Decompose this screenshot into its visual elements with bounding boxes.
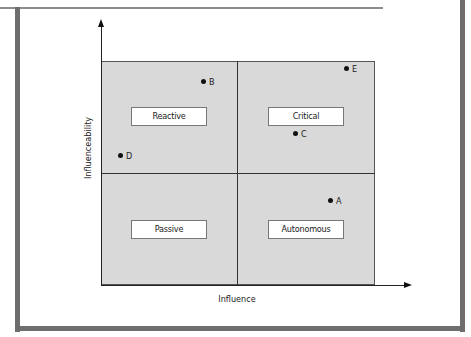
- quadrant-label-autonomous: Autonomous: [268, 220, 344, 239]
- data-point-a: A: [328, 196, 342, 206]
- point-marker-icon: [201, 79, 206, 84]
- x-axis: [101, 285, 406, 286]
- y-axis-label: Influenceability: [83, 127, 93, 179]
- frame-left-border: [15, 7, 20, 332]
- quadrant-label-passive: Passive: [131, 220, 207, 239]
- data-point-c: C: [293, 129, 307, 139]
- point-marker-icon: [344, 66, 349, 71]
- horizontal-divider: [101, 173, 375, 174]
- quadrant-label-critical: Critical: [268, 107, 344, 126]
- point-label: E: [352, 64, 357, 74]
- top-rule: [0, 7, 383, 9]
- point-marker-icon: [293, 131, 298, 136]
- x-axis-label: Influence: [212, 294, 262, 304]
- point-label: A: [336, 196, 342, 206]
- point-label: C: [301, 129, 307, 139]
- data-point-b: B: [201, 77, 215, 87]
- data-point-d: D: [118, 151, 132, 161]
- frame-bottom-border: [15, 326, 465, 331]
- quadrant-label-reactive: Reactive: [131, 107, 207, 126]
- point-marker-icon: [328, 198, 333, 203]
- y-axis-arrow-icon: [98, 19, 104, 27]
- point-label: D: [126, 151, 132, 161]
- point-label: B: [209, 77, 215, 87]
- x-axis-arrow-icon: [404, 282, 412, 288]
- point-marker-icon: [118, 153, 123, 158]
- data-point-e: E: [344, 64, 357, 74]
- frame-right-border: [460, 0, 465, 332]
- y-axis: [101, 24, 102, 285]
